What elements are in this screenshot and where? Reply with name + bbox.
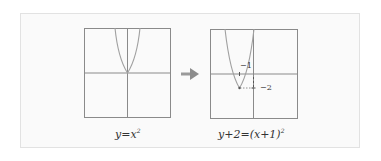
equation-right-base: y+2=(x+1) bbox=[218, 128, 281, 141]
equation-left-exponent: 2 bbox=[137, 127, 141, 134]
parabola-curve bbox=[225, 29, 254, 88]
tick-label-y: −2 bbox=[260, 83, 272, 92]
equation-right-exponent: 2 bbox=[281, 127, 285, 134]
equation-left: y=x2 bbox=[115, 127, 140, 141]
equation-left-base: y=x bbox=[115, 128, 137, 141]
equation-right: y+2=(x+1)2 bbox=[218, 127, 284, 141]
graph-parabola-translated bbox=[210, 29, 299, 120]
right-arrow-icon bbox=[180, 67, 200, 81]
graph-parabola-original bbox=[84, 28, 172, 119]
tick-label-x: −1 bbox=[240, 61, 252, 70]
